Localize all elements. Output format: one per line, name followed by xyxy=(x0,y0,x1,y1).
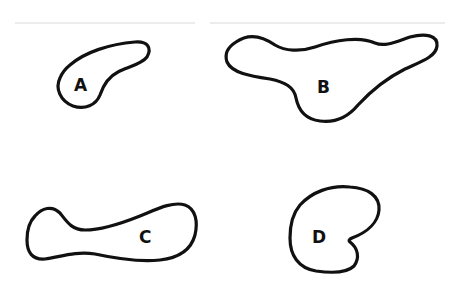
shape-b-label: B xyxy=(317,77,330,97)
shape-a: A xyxy=(58,42,149,107)
shape-c: C xyxy=(27,204,196,261)
shape-c-label: C xyxy=(139,227,151,247)
shape-d: D xyxy=(290,187,379,273)
shape-d-label: D xyxy=(312,227,326,247)
shape-a-label: A xyxy=(74,75,88,95)
shape-b: B xyxy=(226,35,437,121)
blob-diagram: A B C D xyxy=(0,0,450,302)
